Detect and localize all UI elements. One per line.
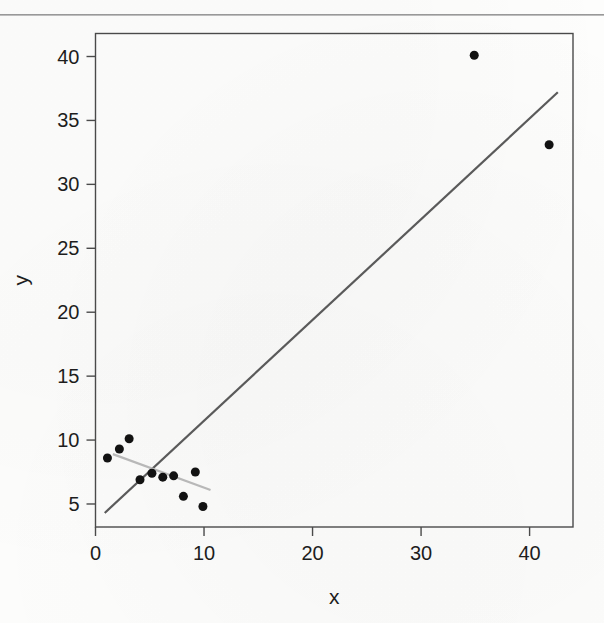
- data-point: [147, 469, 156, 478]
- y-tick-label: 25: [57, 237, 79, 259]
- axes-frame: [96, 34, 574, 528]
- x-tick-label: 0: [90, 542, 101, 564]
- y-axis-ticks: [87, 57, 96, 504]
- x-axis-label: x: [329, 585, 340, 608]
- y-tick-label: 5: [68, 493, 79, 515]
- x-tick-label: 20: [301, 542, 323, 564]
- data-point: [125, 434, 134, 443]
- x-tick-label: 40: [518, 542, 540, 564]
- data-point: [470, 51, 479, 60]
- y-axis-tick-labels: 510152025303540: [57, 46, 79, 515]
- y-tick-label: 40: [57, 46, 79, 68]
- data-point: [169, 471, 178, 480]
- data-point: [198, 502, 207, 511]
- overall-fit-line: [105, 92, 558, 513]
- data-point: [135, 475, 144, 484]
- x-tick-label: 10: [193, 542, 215, 564]
- data-point: [158, 473, 167, 482]
- x-axis-tick-labels: 010203040: [90, 542, 541, 564]
- figure-page: 010203040 510152025303540 x y: [0, 0, 604, 623]
- x-tick-label: 30: [410, 542, 432, 564]
- x-axis-ticks: [96, 527, 530, 536]
- scatter-plot: 010203040 510152025303540 x y: [0, 0, 604, 623]
- data-point: [191, 468, 200, 477]
- data-point: [103, 453, 112, 462]
- y-axis-label: y: [9, 275, 32, 286]
- data-point: [115, 445, 124, 454]
- data-point: [179, 492, 188, 501]
- data-point: [545, 140, 554, 149]
- y-tick-label: 30: [57, 173, 79, 195]
- axes-frame-rect: [96, 34, 574, 528]
- y-tick-label: 15: [57, 365, 79, 387]
- y-tick-label: 10: [57, 429, 79, 451]
- y-tick-label: 35: [57, 109, 79, 131]
- data-points: [103, 51, 554, 511]
- y-tick-label: 20: [57, 301, 79, 323]
- trend-lines: [105, 92, 558, 513]
